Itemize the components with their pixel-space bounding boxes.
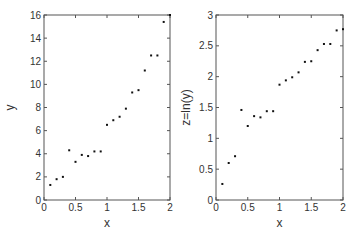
plot-y-vs-x: 00.511.520246810121416xy bbox=[3, 10, 173, 231]
y-tick-label: 2 bbox=[35, 171, 41, 182]
y-tick-label: 14 bbox=[30, 33, 42, 44]
data-point bbox=[68, 149, 70, 151]
x-tick-label: 1 bbox=[104, 202, 110, 213]
y-tick-label: 8 bbox=[35, 102, 41, 113]
y-axis-label: y bbox=[3, 105, 17, 111]
y-tick-label: 0 bbox=[35, 195, 41, 206]
data-point bbox=[169, 14, 171, 16]
y-tick-label: 16 bbox=[30, 10, 42, 21]
data-point bbox=[125, 108, 127, 110]
data-point bbox=[150, 54, 152, 56]
data-point bbox=[304, 61, 306, 63]
data-point bbox=[131, 91, 133, 93]
data-point bbox=[310, 60, 312, 62]
data-point bbox=[253, 115, 255, 117]
y-tick-label: 12 bbox=[30, 56, 42, 67]
x-tick-label: 1.5 bbox=[304, 202, 318, 213]
data-point bbox=[323, 43, 325, 45]
data-point bbox=[329, 43, 331, 45]
x-tick-label: 0.5 bbox=[69, 202, 83, 213]
x-axis-label: x bbox=[277, 216, 283, 230]
data-point bbox=[156, 54, 158, 56]
y-tick-label: 1 bbox=[207, 133, 213, 144]
y-tick-label: 3 bbox=[207, 10, 213, 21]
x-tick-label: 1 bbox=[277, 202, 283, 213]
y-tick-label: 2.5 bbox=[199, 40, 213, 51]
data-point bbox=[298, 71, 300, 73]
data-point bbox=[112, 119, 114, 121]
data-point bbox=[49, 184, 51, 186]
data-point bbox=[259, 116, 261, 118]
chart-figure: 00.511.520246810121416xy 00.511.5200.511… bbox=[0, 0, 361, 237]
data-point bbox=[81, 154, 83, 156]
data-point bbox=[106, 124, 108, 126]
data-point bbox=[240, 109, 242, 111]
y-tick-label: 1.5 bbox=[199, 102, 213, 113]
data-point bbox=[87, 155, 89, 157]
data-point bbox=[75, 161, 77, 163]
data-point bbox=[138, 89, 140, 91]
data-point bbox=[144, 70, 146, 72]
y-tick-label: 4 bbox=[35, 148, 41, 159]
data-point bbox=[279, 84, 281, 86]
y-tick-label: 0 bbox=[207, 195, 213, 206]
data-point bbox=[228, 162, 230, 164]
data-point bbox=[93, 150, 95, 152]
y-tick-label: 10 bbox=[30, 79, 42, 90]
data-point bbox=[247, 125, 249, 127]
data-point bbox=[291, 76, 293, 78]
y-axis-label: z=ln(y) bbox=[179, 89, 193, 125]
x-tick-label: 0 bbox=[41, 202, 47, 213]
plot-lny-vs-x: 00.511.5200.511.522.53xz=ln(y) bbox=[179, 10, 346, 231]
x-tick-label: 0 bbox=[213, 202, 219, 213]
x-tick-label: 1.5 bbox=[132, 202, 146, 213]
data-point bbox=[336, 29, 338, 31]
plot-frame bbox=[216, 15, 343, 200]
plot-frame bbox=[44, 15, 170, 200]
data-point bbox=[62, 176, 64, 178]
y-tick-label: 0.5 bbox=[199, 164, 213, 175]
x-tick-label: 0.5 bbox=[241, 202, 255, 213]
data-point bbox=[119, 116, 121, 118]
x-tick-label: 2 bbox=[167, 202, 173, 213]
y-tick-label: 2 bbox=[207, 71, 213, 82]
x-axis-label: x bbox=[104, 216, 110, 230]
data-point bbox=[342, 28, 344, 30]
data-point bbox=[234, 155, 236, 157]
y-tick-label: 6 bbox=[35, 125, 41, 136]
data-point bbox=[163, 21, 165, 23]
data-point bbox=[317, 49, 319, 51]
data-point bbox=[56, 178, 58, 180]
data-point bbox=[100, 150, 102, 152]
data-point bbox=[266, 110, 268, 112]
x-tick-label: 2 bbox=[340, 202, 346, 213]
data-point bbox=[272, 110, 274, 112]
data-point bbox=[221, 183, 223, 185]
data-point bbox=[285, 79, 287, 81]
